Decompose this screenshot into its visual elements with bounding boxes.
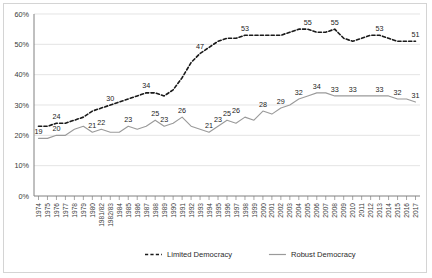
data-label: 19 — [34, 127, 42, 136]
data-label: 25 — [223, 109, 231, 118]
data-label: 28 — [259, 100, 267, 109]
data-label: 23 — [160, 115, 168, 124]
data-label: 21 — [205, 121, 213, 130]
x-axis-tick-label: 1976 — [53, 203, 60, 218]
data-label: 47 — [196, 42, 204, 51]
x-axis-tick-label: 1987 — [143, 203, 150, 218]
x-axis-tick-label: 1989 — [161, 203, 168, 218]
x-axis-tick-label: 1997 — [233, 203, 240, 218]
x-axis-tick-label: 2005 — [304, 203, 311, 218]
data-label: 25 — [151, 109, 159, 118]
x-axis-tick-label: 2009 — [340, 203, 347, 218]
x-axis-tick-label: 2003 — [286, 203, 293, 218]
x-axis-tick-label: 2010 — [349, 203, 356, 218]
x-axis-tick-label: 1990 — [170, 203, 177, 218]
x-axis-tick-label: 1977 — [62, 203, 69, 218]
x-axis-tick-label: 2016 — [403, 203, 410, 218]
chart-svg: 0%10%20%30%40%50%60%19741975197619771978… — [0, 0, 432, 278]
data-label: 34 — [142, 81, 150, 90]
x-axis-tick-label: 2006 — [313, 203, 320, 218]
x-axis-tick-label: 1992 — [188, 203, 195, 218]
y-axis-tick-label: 0% — [18, 192, 29, 201]
x-axis-tick-label: 2014 — [385, 203, 392, 218]
x-axis-tick-label: 1982/83 — [107, 203, 114, 227]
x-axis-tick-label: 1995 — [215, 203, 222, 218]
x-axis-tick-label: 2004 — [295, 203, 302, 218]
x-axis-tick-label: 1999 — [251, 203, 258, 218]
x-axis-tick-label: 2000 — [260, 203, 267, 218]
x-axis-tick-label: 1985 — [125, 203, 132, 218]
y-axis-tick-label: 30% — [14, 101, 29, 110]
x-axis-tick-label: 1979 — [80, 203, 87, 218]
legend-label-limited-democracy: Limited Democracy — [167, 250, 232, 259]
x-axis-tick-label: 1981/82 — [98, 203, 105, 227]
x-axis-tick-label: 2012 — [367, 203, 374, 218]
legend-label-robust-democracy: Robust Democracy — [291, 250, 356, 259]
y-axis-tick-label: 20% — [14, 131, 29, 140]
x-axis-tick-label: 1994 — [206, 203, 213, 218]
x-axis-tick-label: 1978 — [71, 203, 78, 218]
y-axis-tick-label: 60% — [14, 10, 29, 19]
x-axis-tick-label: 1988 — [152, 203, 159, 218]
data-label: 32 — [295, 88, 303, 97]
x-axis-tick-label: 2011 — [358, 203, 365, 218]
y-axis-tick-label: 50% — [14, 40, 29, 49]
data-label: 26 — [178, 106, 186, 115]
line-chart: 0%10%20%30%40%50%60%19741975197619771978… — [0, 0, 432, 278]
data-label: 20 — [52, 124, 60, 133]
x-axis-tick-label: 2007 — [322, 203, 329, 218]
data-label: 34 — [313, 82, 321, 91]
x-axis-tick-label: 1991 — [179, 203, 186, 218]
data-label: 32 — [394, 88, 402, 97]
data-label: 23 — [214, 115, 222, 124]
x-axis-tick-label: 1996 — [224, 203, 231, 218]
x-axis-tick-label: 1974 — [35, 203, 42, 218]
x-axis-tick-label: 2002 — [277, 203, 284, 218]
data-label: 24 — [52, 112, 60, 121]
data-label: 55 — [331, 18, 339, 27]
data-label: 26 — [232, 106, 240, 115]
x-axis-tick-label: 2013 — [376, 203, 383, 218]
data-label: 30 — [106, 94, 114, 103]
x-axis-tick-label: 1998 — [242, 203, 249, 218]
data-label: 23 — [124, 115, 132, 124]
x-axis-tick-label: 1993 — [197, 203, 204, 218]
data-label: 33 — [331, 85, 339, 94]
y-axis-tick-label: 40% — [14, 70, 29, 79]
x-axis-tick-label: 2001 — [268, 203, 275, 218]
data-label: 21 — [88, 121, 96, 130]
x-axis-tick-label: 2008 — [331, 203, 338, 218]
data-label: 53 — [241, 24, 249, 33]
data-label: 51 — [412, 30, 420, 39]
data-label: 55 — [304, 18, 312, 27]
x-axis-tick-label: 1980 — [89, 203, 96, 218]
x-axis-tick-label: 1984 — [116, 203, 123, 218]
data-label: 33 — [349, 85, 357, 94]
x-axis-tick-label: 1986 — [134, 203, 141, 218]
y-axis-tick-label: 10% — [14, 161, 29, 170]
x-axis-tick-label: 2017 — [412, 203, 419, 218]
data-label: 29 — [277, 97, 285, 106]
x-axis-tick-label: 2015 — [394, 203, 401, 218]
data-label: 33 — [376, 85, 384, 94]
data-label: 22 — [97, 118, 105, 127]
x-axis-tick-label: 1975 — [44, 203, 51, 218]
data-label: 31 — [412, 91, 420, 100]
data-label: 53 — [376, 24, 384, 33]
